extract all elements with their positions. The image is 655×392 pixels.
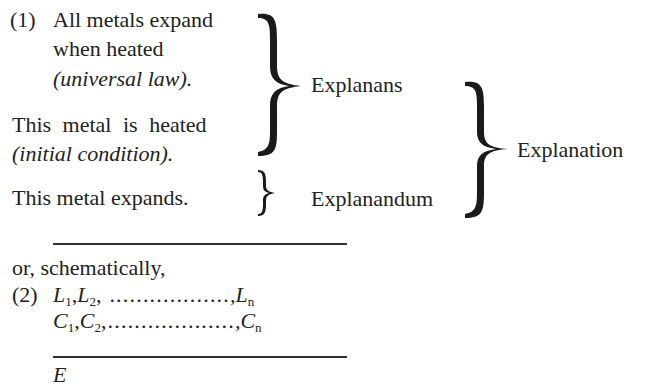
explanandum-label: Explanandum <box>311 186 433 212</box>
laws-row: L1,L2, ..................,Ln <box>53 282 254 308</box>
explanation-brace-icon <box>462 78 512 222</box>
inference-line <box>53 356 347 358</box>
explanation-label: Explanation <box>517 137 623 163</box>
explanandum-symbol: E <box>53 362 66 388</box>
law-line-1: All metals expand <box>53 7 213 33</box>
explanandum-brace-icon <box>254 168 278 218</box>
example-number-1: (1) <box>10 7 36 33</box>
initial-condition-note: (initial condition). <box>12 141 173 167</box>
explanans-brace-icon <box>255 10 305 158</box>
law-line-2: when heated <box>53 36 164 62</box>
explanans-label: Explanans <box>311 72 403 98</box>
initial-condition: This metal is heated <box>12 112 207 138</box>
example-number-2: (2) <box>12 282 38 308</box>
schematic-transition: or, schematically, <box>12 255 165 281</box>
divider-line <box>53 243 347 245</box>
conditions-row: C1,C2,...................,Cn <box>53 308 262 334</box>
law-note: (universal law). <box>53 66 192 92</box>
conclusion-statement: This metal expands. <box>12 185 189 211</box>
